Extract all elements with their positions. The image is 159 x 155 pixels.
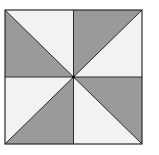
pinwheel-diagram <box>0 0 159 155</box>
center-point <box>72 75 75 78</box>
